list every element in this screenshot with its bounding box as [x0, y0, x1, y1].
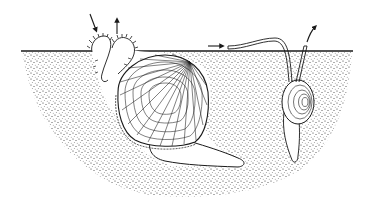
bivalve-shell [116, 54, 209, 149]
snail-outflow-arrow [307, 27, 315, 42]
inflow-arrow [90, 14, 96, 30]
illustration: Line illustration of a cockle-like bival… [0, 0, 383, 208]
